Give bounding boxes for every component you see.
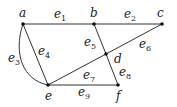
edge-label-e5: e5 [84, 35, 96, 51]
edge-label-e2: e2 [124, 7, 136, 23]
node-f [116, 83, 120, 87]
node-label-d: d [114, 52, 122, 66]
edge-label-e6: e6 [139, 37, 151, 53]
edge-e6 [106, 24, 162, 54]
node-label-b: b [90, 6, 98, 20]
edge-label-e3: e3 [8, 51, 20, 67]
node-label-e: e [45, 89, 52, 103]
node-a [21, 22, 25, 26]
node-e [46, 83, 50, 87]
node-label-c: c [157, 6, 164, 20]
edge-label-e4: e4 [38, 44, 50, 60]
graph-svg: e1e2e3e4e5e6e7e8e9abcdef [0, 0, 177, 107]
edge-label-e8: e8 [119, 65, 131, 81]
node-b [92, 22, 96, 26]
edge-label-e9: e9 [78, 85, 90, 101]
graph-diagram: e1e2e3e4e5e6e7e8e9abcdef [0, 0, 177, 107]
node-label-a: a [19, 6, 26, 20]
node-label-f: f [115, 89, 123, 103]
node-c [160, 22, 164, 26]
edge-label-e7: e7 [83, 68, 95, 84]
edge-e7 [48, 54, 106, 85]
node-d [104, 52, 108, 56]
edge-label-e1: e1 [54, 7, 66, 23]
